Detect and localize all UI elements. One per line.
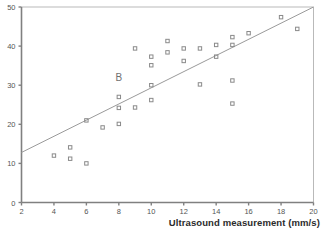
x-tick-label: 6 bbox=[84, 207, 88, 216]
x-tick-label: 8 bbox=[117, 207, 121, 216]
data-point-marker bbox=[166, 39, 169, 42]
x-tick-label: 12 bbox=[180, 207, 188, 216]
data-point-marker bbox=[231, 35, 234, 38]
x-tick-label: 4 bbox=[52, 207, 56, 216]
scatter-plot-figure: 010203040502468101214161820B Ultrasound … bbox=[0, 0, 323, 229]
data-point-marker bbox=[198, 83, 201, 86]
data-point-marker bbox=[117, 122, 120, 125]
data-point-marker bbox=[150, 55, 153, 58]
plot-frame bbox=[22, 7, 314, 203]
data-point-marker bbox=[247, 31, 250, 34]
data-point-marker bbox=[68, 146, 71, 149]
y-tick-label: 0 bbox=[11, 199, 15, 208]
y-tick-label: 10 bbox=[7, 159, 15, 168]
x-tick-label: 18 bbox=[277, 207, 285, 216]
data-point-marker bbox=[231, 79, 234, 82]
data-point-marker bbox=[198, 47, 201, 50]
data-point-marker bbox=[150, 64, 153, 67]
data-point-marker bbox=[214, 43, 217, 46]
data-point-marker bbox=[182, 59, 185, 62]
data-point-marker bbox=[296, 27, 299, 30]
x-tick-label: 20 bbox=[309, 207, 317, 216]
x-axis-label: Ultrasound measurement (mm/s) bbox=[169, 217, 320, 228]
data-point-marker bbox=[101, 126, 104, 129]
data-point-marker bbox=[133, 47, 136, 50]
x-tick-label: 14 bbox=[212, 207, 220, 216]
x-tick-label: 10 bbox=[147, 207, 155, 216]
regression-line bbox=[22, 7, 314, 152]
data-point-marker bbox=[150, 98, 153, 101]
x-tick-label: 2 bbox=[19, 207, 23, 216]
data-point-marker bbox=[117, 95, 120, 98]
data-point-marker bbox=[166, 51, 169, 54]
data-point-marker bbox=[182, 47, 185, 50]
data-point-marker bbox=[52, 154, 55, 157]
data-point-marker bbox=[150, 84, 153, 87]
data-point-marker bbox=[117, 106, 120, 109]
data-point-marker bbox=[231, 43, 234, 46]
data-point-marker bbox=[133, 106, 136, 109]
y-tick-label: 40 bbox=[7, 42, 15, 51]
data-point-marker bbox=[231, 102, 234, 105]
y-tick-label: 50 bbox=[7, 3, 15, 12]
y-tick-label: 30 bbox=[7, 81, 15, 90]
y-tick-label: 20 bbox=[7, 120, 15, 129]
x-tick-label: 16 bbox=[244, 207, 252, 216]
data-point-marker bbox=[279, 15, 282, 18]
panel-label: B bbox=[115, 72, 122, 83]
data-point-marker bbox=[68, 157, 71, 160]
plot-canvas: 010203040502468101214161820B bbox=[0, 0, 323, 229]
data-point-marker bbox=[85, 162, 88, 165]
